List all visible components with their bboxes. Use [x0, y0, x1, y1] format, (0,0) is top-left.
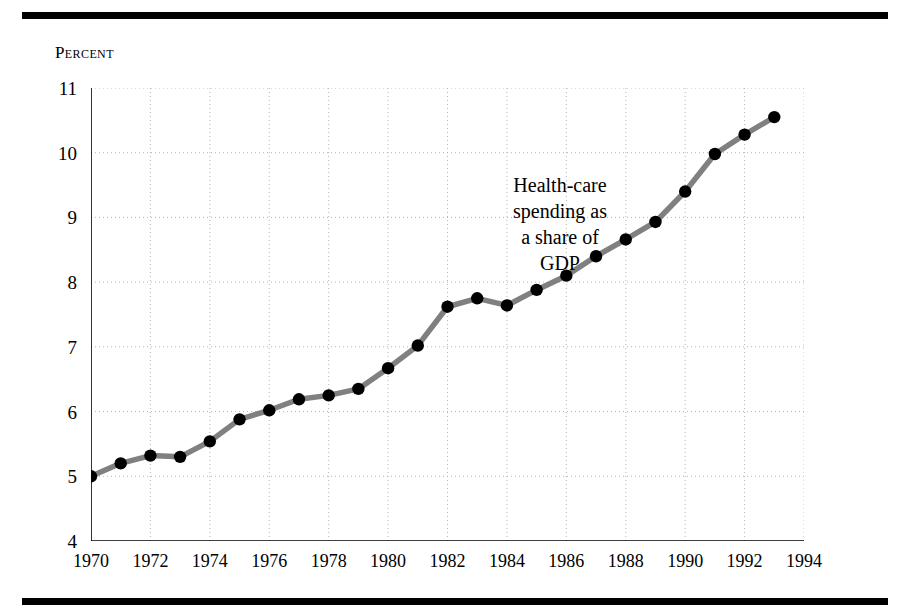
- series-data-point: [263, 404, 275, 416]
- series-annotation: Health-care spending as a share of GDP: [462, 172, 658, 276]
- y-axis-tick-label: 6: [43, 403, 77, 422]
- series-data-point: [174, 451, 186, 463]
- series-data-point: [471, 292, 483, 304]
- y-axis-tick-label: 4: [43, 532, 77, 551]
- series-line: [91, 117, 774, 476]
- series-data-point: [709, 148, 721, 160]
- annotation-line-2: spending as: [462, 198, 658, 224]
- annotation-line-3: a share of: [462, 224, 658, 250]
- series-data-point: [738, 128, 750, 140]
- series-data-point: [144, 449, 156, 461]
- series-data-point: [501, 299, 513, 311]
- y-axis-tick-label: 5: [43, 467, 77, 486]
- series-data-point: [441, 301, 453, 313]
- x-axis-tick-label: 1994: [769, 552, 839, 570]
- line-chart-svg: [91, 88, 804, 541]
- series-data-point: [530, 284, 542, 296]
- series-data-point: [115, 457, 127, 469]
- series-data-point: [293, 393, 305, 405]
- annotation-line-4: GDP: [462, 250, 658, 276]
- series-data-point: [322, 389, 334, 401]
- series-data-point: [233, 413, 245, 425]
- series-data-point: [204, 435, 216, 447]
- y-axis-tick-label: 10: [43, 144, 77, 163]
- series-data-point: [352, 383, 364, 395]
- y-axis-tick-label: 11: [43, 79, 77, 98]
- y-axis-tick-label: 9: [43, 208, 77, 227]
- y-axis-caption: Percent: [55, 44, 114, 61]
- series-data-point: [412, 339, 424, 351]
- series-data-point: [382, 362, 394, 374]
- chart-plot-area: [91, 88, 804, 541]
- series-data-point: [768, 111, 780, 123]
- annotation-line-1: Health-care: [462, 172, 658, 198]
- y-axis-tick-label: 7: [43, 338, 77, 357]
- y-axis-tick-label: 8: [43, 273, 77, 292]
- bottom-rule: [22, 598, 888, 605]
- series-data-point: [679, 185, 691, 197]
- top-rule: [22, 12, 888, 19]
